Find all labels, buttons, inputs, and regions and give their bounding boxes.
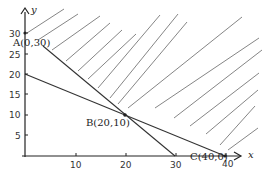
y-tick-label: 20 xyxy=(9,70,21,80)
point-c-label: C(40,0) xyxy=(190,151,228,162)
y-tick-label: 5 xyxy=(15,131,21,141)
x-tick-label: 30 xyxy=(170,160,182,170)
hatch-region xyxy=(27,9,262,150)
y-tick-label: 15 xyxy=(9,90,20,100)
diagram-canvas: y x 30 25 20 15 10 5 10 20 30 40 A(0,30)… xyxy=(0,0,265,174)
x-tick-label: 20 xyxy=(120,160,132,170)
point-a-marker xyxy=(23,31,26,34)
x-axis-label: x xyxy=(248,149,254,160)
y-axis-label: y xyxy=(30,4,37,15)
y-tick-label: 10 xyxy=(9,110,21,120)
y-tick-label: 25 xyxy=(9,50,20,60)
x-tick-label: 10 xyxy=(70,160,82,170)
point-b-label: B(20,10) xyxy=(86,117,130,128)
constraint-line-1 xyxy=(43,46,175,156)
point-a-label: A(0,30) xyxy=(12,37,50,48)
